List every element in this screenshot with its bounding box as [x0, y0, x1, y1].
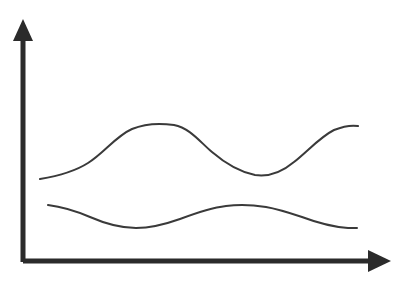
- figure-root: [0, 0, 408, 281]
- curves-group: [40, 124, 358, 228]
- axes-group: [13, 19, 391, 272]
- plot-canvas: [0, 0, 408, 281]
- x-axis-arrowhead-icon: [368, 250, 391, 272]
- y-axis-arrowhead-icon: [13, 19, 33, 41]
- upper-curve: [40, 124, 358, 179]
- lower-curve: [48, 205, 357, 228]
